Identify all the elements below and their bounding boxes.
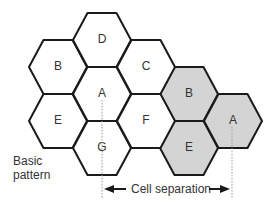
hex-label-basic-f: F bbox=[142, 113, 149, 127]
cell-reuse-diagram: BEDAGCFBEA Cell separation Basic pattern bbox=[0, 0, 278, 216]
hex-label-reuse-b: B bbox=[185, 86, 193, 100]
hex-label-basic-c: C bbox=[142, 59, 151, 73]
right-arrow bbox=[209, 185, 230, 193]
left-arrow bbox=[104, 185, 126, 193]
hex-label-basic-d: D bbox=[98, 32, 107, 46]
hex-label-basic-a: A bbox=[98, 86, 106, 100]
hex-cells bbox=[29, 13, 262, 175]
basic-pattern-label-line1: Basic bbox=[13, 154, 42, 168]
hex-label-basic-b: B bbox=[54, 59, 62, 73]
hex-label-reuse-e: E bbox=[185, 140, 193, 154]
basic-pattern-label-line2: pattern bbox=[13, 168, 50, 182]
hex-label-reuse-a: A bbox=[229, 113, 237, 127]
cell-separation-label: Cell separation bbox=[131, 182, 211, 196]
hex-label-basic-e: E bbox=[54, 113, 62, 127]
